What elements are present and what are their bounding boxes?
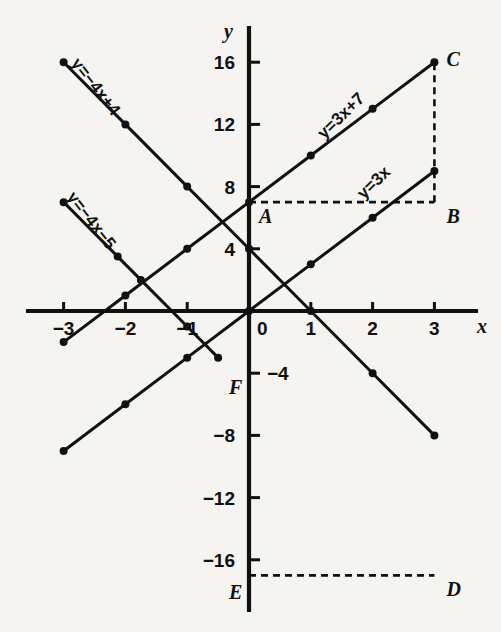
point-label-E: E — [228, 581, 242, 603]
coordinate-plane: −3−2−10123x161284−4−8−12−16yy=3x+7y=3xy=… — [0, 0, 501, 632]
data-point — [183, 183, 191, 191]
x-tick-label: 3 — [429, 318, 440, 339]
data-point — [183, 354, 191, 362]
y-tick-label: 12 — [214, 114, 235, 135]
data-point — [245, 307, 253, 315]
point-label-B: B — [445, 205, 459, 227]
x-tick-label: 0 — [257, 318, 268, 339]
equation-label-y=-4x-5: y=−4x−5 — [63, 188, 120, 253]
y-tick-label: 8 — [224, 177, 235, 198]
y-tick-label: −12 — [203, 488, 235, 509]
data-point — [430, 431, 438, 439]
data-point — [214, 354, 222, 362]
data-point — [369, 105, 377, 113]
data-point — [183, 245, 191, 253]
data-point — [121, 291, 129, 299]
y-tick-label: −16 — [203, 550, 235, 571]
graph-figure: −3−2−10123x161284−4−8−12−16yy=3x+7y=3xy=… — [0, 0, 501, 632]
equation-label-y=3x: y=3x — [353, 162, 394, 203]
data-point — [245, 245, 253, 253]
y-tick-label: −8 — [213, 425, 235, 446]
y-tick-label: 4 — [224, 239, 235, 260]
point-label-C: C — [446, 48, 460, 70]
data-point — [183, 323, 191, 331]
data-point — [307, 260, 315, 268]
y-tick-label: 16 — [214, 52, 235, 73]
data-point — [121, 400, 129, 408]
point-label-A: A — [257, 205, 272, 227]
data-point — [137, 276, 145, 284]
data-point — [430, 58, 438, 66]
data-point — [369, 214, 377, 222]
point-label-F: F — [228, 376, 243, 398]
data-point — [245, 198, 253, 206]
point-label-D: D — [445, 578, 460, 600]
data-point — [307, 307, 315, 315]
data-point — [60, 58, 68, 66]
data-point — [60, 447, 68, 455]
data-point — [369, 369, 377, 377]
x-tick-label: 2 — [367, 318, 378, 339]
data-point — [60, 338, 68, 346]
y-axis-label: y — [222, 20, 233, 43]
data-point — [307, 152, 315, 160]
data-point — [430, 167, 438, 175]
data-point — [114, 253, 122, 261]
data-point — [121, 120, 129, 128]
x-tick-label: −2 — [115, 318, 137, 339]
x-axis-label: x — [476, 315, 487, 337]
y-tick-label: −4 — [267, 363, 289, 384]
equation-label-y=-4x+4: y=−4x+4 — [67, 54, 124, 119]
x-tick-label: 1 — [306, 318, 317, 339]
